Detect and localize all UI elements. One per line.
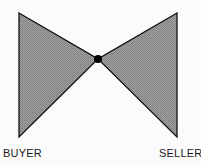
- center-node: [94, 55, 102, 63]
- seller-triangle: [98, 13, 177, 137]
- buyer-label: BUYER: [3, 146, 42, 160]
- bow-tie-diagram: [0, 0, 201, 165]
- seller-label: SELLER: [159, 146, 201, 160]
- buyer-triangle: [19, 13, 98, 137]
